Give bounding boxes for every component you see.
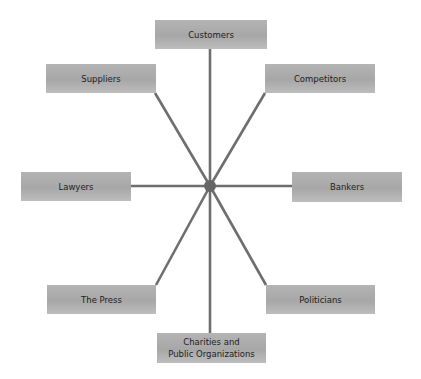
connector-the-press: [156, 186, 210, 285]
connector-suppliers: [155, 93, 210, 186]
node-label: Bankers: [330, 181, 364, 193]
node-suppliers: Suppliers: [46, 64, 156, 93]
node-politicians: Politicians: [266, 285, 375, 314]
node-lawyers: Lawyers: [21, 172, 131, 201]
node-label: Suppliers: [81, 73, 120, 85]
node-label: Competitors: [294, 73, 346, 85]
stakeholder-diagram: Customers Suppliers Competitors Lawyers …: [0, 0, 421, 379]
node-the-press: The Press: [47, 285, 156, 314]
hub-dot: [204, 180, 216, 192]
node-label: Lawyers: [58, 181, 93, 193]
node-label: Charities and Public Organizations: [168, 336, 255, 360]
connector-competitors: [210, 93, 265, 186]
node-label: Customers: [188, 29, 234, 41]
connector-politicians: [210, 186, 266, 285]
node-charities: Charities and Public Organizations: [157, 333, 266, 363]
node-customers: Customers: [155, 20, 267, 49]
node-bankers: Bankers: [292, 172, 402, 202]
node-label: Politicians: [299, 294, 342, 306]
node-label: The Press: [81, 294, 122, 306]
node-competitors: Competitors: [265, 64, 375, 93]
